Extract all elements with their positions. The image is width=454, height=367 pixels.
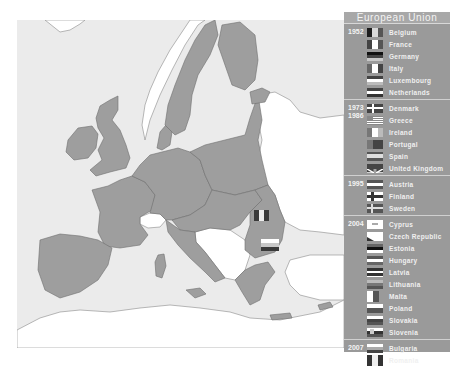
flag-luxembourg-icon	[367, 76, 383, 85]
legend-row: Sweden	[344, 202, 450, 214]
country-name: Latvia	[389, 269, 410, 276]
flag-portugal-icon	[367, 140, 383, 149]
flag-estonia-icon	[367, 244, 383, 253]
flag-belgium-icon	[367, 28, 383, 37]
country-name: Netherlands	[389, 89, 430, 96]
legend-row: France	[344, 38, 450, 50]
country-name: Sweden	[389, 205, 415, 212]
flag-bulgaria-icon	[367, 344, 383, 353]
legend-row: Slovenia	[344, 326, 450, 338]
legend-row: United Kingdom	[344, 162, 450, 174]
country-name: Slovenia	[389, 329, 418, 336]
legend-row: Lithuania	[344, 278, 450, 290]
flag-hungary-icon	[367, 256, 383, 265]
legend-row: Slovakia	[344, 314, 450, 326]
flag-france-icon	[367, 40, 383, 49]
flag-finland-icon	[367, 192, 383, 201]
country-name: Czech Republic	[389, 233, 442, 240]
legend-year: 1952	[348, 27, 364, 36]
country-name: Italy	[389, 65, 404, 72]
flag-denmark-icon	[367, 104, 383, 113]
legend-row: Portugal	[344, 138, 450, 150]
legend-title: European Union	[344, 12, 450, 24]
flag-sweden-icon	[367, 204, 383, 213]
legend-group-1995: 1995 Austria Finland Sweden	[344, 176, 450, 216]
flag-greece-icon	[367, 116, 383, 125]
legend-row: Netherlands	[344, 86, 450, 98]
country-name: France	[389, 41, 412, 48]
europe-map	[17, 20, 344, 348]
country-name: Denmark	[389, 105, 419, 112]
legend-group-1952: 1952 Belgium France Germany Italy Luxemb…	[344, 24, 450, 100]
legend-row: Ireland	[344, 126, 450, 138]
country-name: Estonia	[389, 245, 415, 252]
legend-row: Estonia	[344, 242, 450, 254]
country-name: Cyprus	[389, 221, 413, 228]
flag-romania-icon	[367, 355, 383, 366]
flag-latvia-icon	[367, 268, 383, 277]
country-name: Poland	[389, 305, 412, 312]
legend-row: Italy	[344, 62, 450, 74]
legend-year: 2004	[348, 219, 364, 228]
country-name: Luxembourg	[389, 77, 431, 84]
country-name: Romania	[389, 357, 419, 364]
country-name: Slovakia	[389, 317, 418, 324]
legend-row: Latvia	[344, 266, 450, 278]
flag-italy-icon	[367, 64, 383, 73]
legend-row: Czech Republic	[344, 230, 450, 242]
country-name: Germany	[389, 53, 419, 60]
map-flag-bulgaria	[261, 239, 279, 251]
legend-group-2007: 2007 Bulgaria Romania	[344, 340, 450, 367]
legend-row: Germany	[344, 50, 450, 62]
country-name: United Kingdom	[389, 165, 443, 172]
map-flag-romania	[254, 210, 269, 221]
legend-row: Poland	[344, 302, 450, 314]
flag-netherlands-icon	[367, 88, 383, 97]
country-name: Lithuania	[389, 281, 421, 288]
legend-row: Luxembourg	[344, 74, 450, 86]
flag-czech-republic-icon	[367, 232, 383, 241]
country-name: Austria	[389, 181, 414, 188]
flag-malta-icon	[367, 291, 379, 302]
legend-year: 2007	[348, 343, 364, 352]
flag-cyprus-icon	[367, 220, 383, 229]
flag-poland-icon	[367, 304, 383, 313]
legend-row: Spain	[344, 150, 450, 162]
legend-row: Malta	[344, 290, 450, 302]
flag-united-kingdom-icon	[367, 164, 383, 173]
country-name: Bulgaria	[389, 345, 417, 352]
flag-lithuania-icon	[367, 280, 383, 289]
country-name: Portugal	[389, 141, 418, 148]
flag-spain-icon	[367, 152, 383, 161]
flag-ireland-icon	[367, 128, 383, 137]
legend-row: Finland	[344, 190, 450, 202]
flag-slovenia-icon	[367, 328, 383, 337]
legend-row: Hungary	[344, 254, 450, 266]
flag-austria-icon	[367, 180, 383, 189]
legend-year: 1995	[348, 179, 364, 188]
legend-panel: European Union 1952 Belgium France Germa…	[344, 12, 450, 352]
country-name: Belgium	[389, 29, 417, 36]
country-name: Ireland	[389, 129, 412, 136]
country-name: Finland	[389, 193, 414, 200]
country-name: Greece	[389, 117, 413, 124]
legend-year-end: 1986	[348, 111, 364, 120]
country-name: Malta	[389, 293, 407, 300]
legend-group-1973-1986: 1973 1986 Denmark Greece Ireland Portuga…	[344, 100, 450, 176]
country-name: Hungary	[389, 257, 417, 264]
flag-slovakia-icon	[367, 316, 383, 325]
country-name: Spain	[389, 153, 408, 160]
legend-group-2004: 2004 Cyprus Czech Republic Estonia Hunga…	[344, 216, 450, 340]
flag-germany-icon	[367, 52, 383, 61]
legend-row: Romania	[344, 354, 450, 366]
